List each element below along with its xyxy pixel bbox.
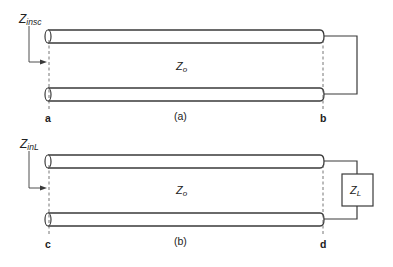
panel-b: ZL ZinL Zo (b) c d: [19, 137, 373, 250]
bottom-conductor-b: [45, 213, 324, 226]
terminal-d-label: d: [320, 238, 326, 250]
caption-b: (b): [174, 235, 187, 247]
input-impedance-label-b: ZinL: [19, 137, 39, 152]
terminal-a-label: a: [45, 112, 51, 124]
bottom-conductor-a: [45, 88, 324, 101]
terminal-c-label: c: [45, 238, 51, 250]
load-wire-top: [324, 161, 357, 174]
top-conductor-b: [45, 155, 324, 168]
panel-a: Zinsc Zo (a) a b: [18, 12, 357, 124]
terminal-b-label: b: [320, 112, 326, 124]
top-conductor-a: [45, 30, 324, 43]
line-impedance-label-b: Zo: [175, 184, 188, 198]
line-impedance-label-a: Zo: [175, 60, 188, 74]
caption-a: (a): [174, 110, 187, 122]
input-arrow-b: [29, 151, 47, 191]
input-impedance-label-a: Zinsc: [18, 12, 42, 27]
short-circuit-wire: [324, 36, 357, 94]
input-arrow-a: [29, 26, 47, 65]
transmission-line-diagram: Zinsc Zo (a) a b ZL ZinL Zo (b) c: [0, 0, 393, 267]
load-wire-bottom: [324, 206, 357, 219]
